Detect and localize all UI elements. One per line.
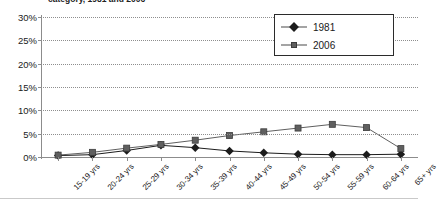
x-tick-label: 50-54 yrs bbox=[312, 162, 342, 192]
x-tick-label: 35-39 yrs bbox=[209, 162, 239, 192]
y-tick-mark bbox=[38, 64, 41, 65]
data-point-2006 bbox=[158, 141, 164, 147]
data-point-2006 bbox=[398, 146, 404, 152]
x-tick-mark bbox=[161, 157, 162, 161]
x-tick-label: 20-24 yrs bbox=[106, 162, 136, 192]
data-point-2006 bbox=[192, 137, 198, 143]
y-tick-label: 25% bbox=[18, 35, 37, 46]
x-tick-mark bbox=[127, 157, 128, 161]
x-tick-label: 30-34 yrs bbox=[175, 162, 205, 192]
x-tick-mark bbox=[58, 157, 59, 161]
y-tick-label: 0% bbox=[23, 152, 37, 163]
y-tick-mark bbox=[38, 17, 41, 18]
diamond-marker-icon bbox=[281, 21, 307, 33]
x-tick-mark bbox=[298, 157, 299, 161]
y-tick-mark bbox=[38, 134, 41, 135]
chart-title-clipped: category, 1981 and 2006 bbox=[48, 0, 268, 4]
x-tick-mark bbox=[332, 157, 333, 161]
data-point-1981 bbox=[225, 147, 233, 155]
data-point-2006 bbox=[364, 125, 370, 131]
x-tick-mark bbox=[92, 157, 93, 161]
y-tick-label: 15% bbox=[18, 82, 37, 93]
x-tick-label: 65+ yrs bbox=[413, 162, 438, 187]
x-tick-label: 60-64 yrs bbox=[380, 162, 410, 192]
data-point-2006 bbox=[89, 149, 95, 155]
gridline bbox=[41, 64, 418, 65]
square-marker-icon bbox=[281, 39, 307, 51]
y-tick-label: 30% bbox=[18, 12, 37, 23]
page-title: category, 1981 and 2006 bbox=[48, 0, 268, 4]
gridline bbox=[41, 134, 418, 135]
data-point-2006 bbox=[329, 121, 335, 127]
legend-item-2006[interactable]: 2006 bbox=[275, 36, 393, 54]
data-point-2006 bbox=[124, 145, 130, 151]
y-tick-mark bbox=[38, 157, 41, 158]
y-tick-label: 20% bbox=[18, 58, 37, 69]
y-tick-label: 10% bbox=[18, 105, 37, 116]
x-tick-mark bbox=[264, 157, 265, 161]
bottom-divider bbox=[0, 198, 418, 199]
y-tick-mark bbox=[38, 110, 41, 111]
x-tick-mark bbox=[195, 157, 196, 161]
data-point-2006 bbox=[295, 125, 301, 131]
x-tick-label: 55-59 yrs bbox=[346, 162, 376, 192]
gridline bbox=[41, 87, 418, 88]
legend-label-2006: 2006 bbox=[313, 40, 335, 51]
data-point-1981 bbox=[191, 143, 199, 151]
x-tick-label: 45-49 yrs bbox=[278, 162, 308, 192]
legend-item-1981[interactable]: 1981 bbox=[275, 18, 393, 36]
y-tick-mark bbox=[38, 40, 41, 41]
y-tick-label: 5% bbox=[23, 128, 37, 139]
x-tick-label: 15-19 yrs bbox=[72, 162, 102, 192]
x-tick-mark bbox=[230, 157, 231, 161]
legend-label-1981: 1981 bbox=[313, 22, 335, 33]
x-tick-mark bbox=[367, 157, 368, 161]
data-point-1981 bbox=[260, 149, 268, 157]
chart-legend: 1981 2006 bbox=[274, 14, 394, 56]
y-tick-mark bbox=[38, 87, 41, 88]
gridline bbox=[41, 110, 418, 111]
x-tick-label: 40-44 yrs bbox=[243, 162, 273, 192]
x-tick-mark bbox=[401, 157, 402, 161]
x-tick-label: 25-29 yrs bbox=[140, 162, 170, 192]
